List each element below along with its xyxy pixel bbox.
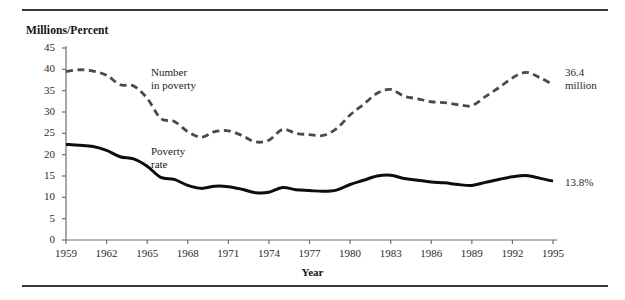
- x-tick-label: 1992: [495, 247, 529, 259]
- x-tick-label: 1965: [130, 247, 164, 259]
- x-tick-label: 1959: [49, 247, 83, 259]
- y-tick-label: 30: [33, 105, 55, 117]
- y-tick-label: 25: [33, 126, 55, 138]
- x-tick-label: 1995: [536, 247, 570, 259]
- y-tick-label: 0: [33, 233, 55, 245]
- end-label-number-in-poverty: 36.4 million: [565, 66, 597, 91]
- x-tick-label: 1971: [211, 247, 245, 259]
- x-tick-label: 1986: [414, 247, 448, 259]
- poverty-chart-figure: Millions/Percent 051015202530354045 1959…: [0, 0, 625, 300]
- y-tick-label: 45: [33, 41, 55, 53]
- end-label-number-value: 36.4: [565, 66, 597, 79]
- end-label-number-unit: million: [565, 79, 597, 92]
- y-tick-label: 40: [33, 62, 55, 74]
- y-tick-label: 20: [33, 148, 55, 160]
- x-tick-label: 1983: [374, 247, 408, 259]
- y-tick-label: 15: [33, 169, 55, 181]
- annotation-poverty-rate: Poverty rate: [151, 145, 185, 170]
- y-tick-label: 5: [33, 212, 55, 224]
- x-axis-title: Year: [0, 266, 625, 278]
- y-tick-label: 35: [33, 84, 55, 96]
- end-label-poverty-rate: 13.8%: [565, 176, 593, 189]
- annotation-rate-line2: rate: [151, 158, 185, 171]
- annotation-number-line1: Number: [151, 66, 196, 79]
- x-tick-label: 1980: [333, 247, 367, 259]
- y-tick-label: 10: [33, 190, 55, 202]
- series-line-poverty-rate: [66, 144, 553, 193]
- series-line-number-in-poverty: [66, 70, 553, 142]
- x-tick-label: 1989: [455, 247, 489, 259]
- annotation-number-line2: in poverty: [151, 79, 196, 92]
- x-tick-label: 1962: [90, 247, 124, 259]
- x-tick-label: 1974: [252, 247, 286, 259]
- x-tick-label: 1968: [171, 247, 205, 259]
- annotation-number-in-poverty: Number in poverty: [151, 66, 196, 91]
- annotation-rate-line1: Poverty: [151, 145, 185, 158]
- x-tick-label: 1977: [293, 247, 327, 259]
